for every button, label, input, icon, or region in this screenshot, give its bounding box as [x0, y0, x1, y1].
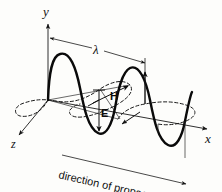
em-wave-figure: y x z λ	[0, 0, 222, 192]
axis-x-label: x	[204, 131, 211, 146]
axis-z	[19, 100, 48, 135]
h-field-label: H	[110, 90, 118, 102]
e-field-label: E	[101, 107, 108, 119]
e-field-wave	[48, 54, 192, 146]
axis-z-label: z	[10, 137, 16, 151]
axis-y-label: y	[41, 4, 49, 19]
wavelength-label: λ	[92, 42, 99, 57]
propagation-caption: direction of propagation	[58, 168, 173, 192]
